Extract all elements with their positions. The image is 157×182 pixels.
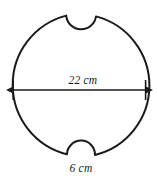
diameter-label: 22 cm	[69, 74, 98, 86]
circle-with-notches-diagram: 22 cm 6 cm	[0, 0, 157, 182]
notch-width-label: 6 cm	[70, 162, 93, 174]
geometry-figure: 22 cm 6 cm	[0, 0, 157, 182]
